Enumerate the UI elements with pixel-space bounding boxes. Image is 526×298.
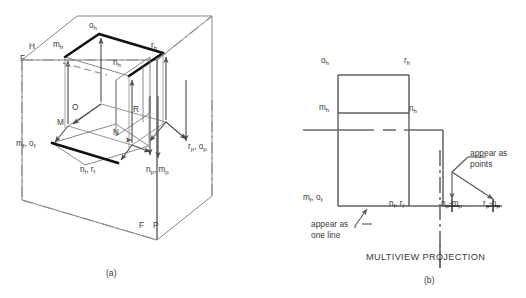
line-mh-oh [65,34,99,57]
p-plane-outline [116,57,150,136]
front-view-rectangle [338,130,409,206]
label-nf-rf-a: nf, rf [80,166,95,174]
plane-label-p-bottom: P [153,222,158,230]
note-points-line2: points [470,159,507,170]
f-plane-object-lines [52,143,118,163]
figure-title: MULTIVIEW PROJECTION [366,252,485,262]
hidden-edge-h [63,63,107,75]
note-oneline-line1: appear as [311,219,348,230]
label-oh-a: oh [89,22,97,30]
note-points-line1: appear as [470,148,507,159]
fold-line-horizontal-b [303,130,443,207]
label-mf-of-a: mf, of [16,140,35,148]
plane-label-h: H [29,43,35,51]
vertex-label-o: O [72,104,78,112]
label-np-mp-a: np, mp [146,166,169,174]
label-rp-op-a: rp, op [188,143,207,151]
plane-label-f-bottom: F [139,222,144,230]
caption-b: (b) [424,275,435,285]
projector-r-to-rp [166,122,186,139]
label-nh-b: nh [409,105,417,113]
label-rh-b: rh [404,57,410,65]
note-appear-as-one-line: appear as one line [311,219,348,240]
label-rh-a: rh [151,42,157,50]
multiview-projection-figure: H F F P O M N R oh mh rh nh mf, of nf, r… [0,0,526,298]
leader-appear-as-one-line [355,209,372,228]
label-mh-a: mh [53,41,63,49]
label-mf-of-b: mf, of [303,194,322,202]
vertex-label-r: R [133,106,139,114]
h-plane-object-lines [65,34,163,76]
line-rh-nh [129,53,163,76]
h-plane-outline [65,34,163,76]
line-mfof-nfrf [52,143,118,163]
label-mh-b: mh [319,104,329,112]
vertex-label-m: M [57,119,64,127]
label-nh-a: nh [113,59,121,67]
glass-box-bottom-right-edge [157,196,212,240]
label-rp-op-b: rp-op [483,200,500,208]
leader-elbow-up [452,157,468,172]
top-view-rectangle [338,75,409,113]
leader-arrow-to-rp [452,172,493,199]
profile-projection-plane [116,57,150,136]
object-hidden-edge [63,63,107,75]
label-nf-rf-b: nf, rf [389,200,404,208]
note-appear-as-points: appear as points [470,148,507,169]
projector-m-to-mf [55,126,68,142]
plane-label-f-top: F [20,55,25,63]
vertex-label-n: N [113,129,119,137]
note-oneline-line2: one line [311,230,348,241]
projector-n-to-nf [121,145,132,160]
caption-a: (a) [106,268,117,278]
horizontal-projection-plane [65,34,163,76]
label-oh-b: oh [321,57,329,65]
view-alignment-lines [338,113,409,130]
label-np-mp-b: np-mp [441,200,462,208]
projectors-to-p-plane [101,80,186,158]
